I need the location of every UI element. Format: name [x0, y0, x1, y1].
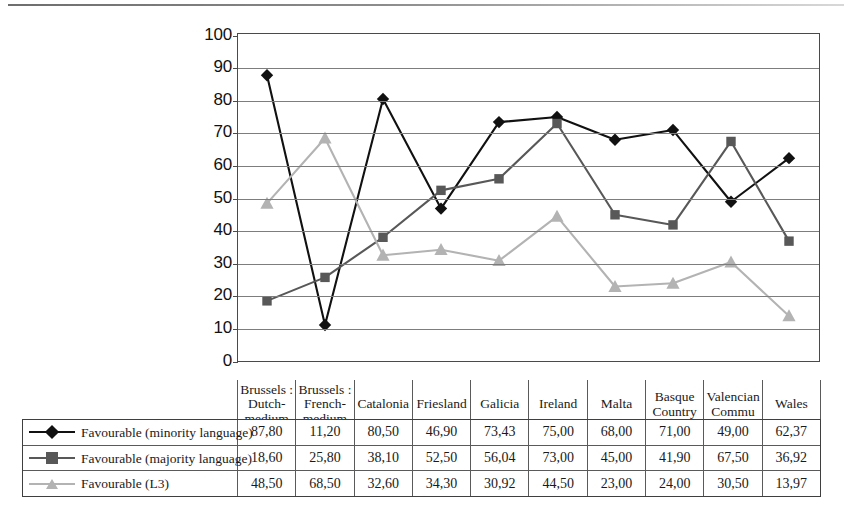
data-value-cell: 25,80: [296, 446, 354, 471]
data-point-marker-square: [262, 296, 271, 305]
table-row: Favourable (minority language)87,8011,20…: [23, 420, 820, 446]
y-tick-mark: [233, 101, 238, 102]
data-value-cell: 34,30: [413, 471, 471, 496]
data-value-cell: 44,50: [529, 471, 587, 496]
y-tick-mark: [233, 296, 238, 297]
data-value-cell: 73,43: [471, 420, 529, 445]
data-value-cell: 68,50: [296, 471, 354, 496]
plot-area: [237, 33, 820, 362]
legend-swatch-diamond-icon: [29, 423, 75, 441]
legend-label: Favourable (majority language): [75, 451, 252, 466]
data-value-cell: 36,92: [763, 446, 820, 471]
legend-cell[interactable]: Favourable (majority language): [23, 446, 238, 471]
table-row: Favourable (majority language)18,6025,80…: [23, 446, 820, 472]
data-value-cell: 18,60: [238, 446, 296, 471]
y-axis-tick-labels: 0102030405060708090100: [196, 18, 232, 362]
data-value-cell: 80,50: [355, 420, 413, 445]
data-value-cell: 56,04: [471, 446, 529, 471]
y-tick-label: 80: [196, 91, 232, 108]
y-tick-label: 30: [196, 254, 232, 271]
data-legend-table: Favourable (minority language)87,8011,20…: [22, 419, 821, 497]
data-point-marker-square: [726, 137, 735, 146]
y-tick-mark: [233, 199, 238, 200]
data-value-cell: 30,50: [704, 471, 762, 496]
gridline: [238, 166, 819, 167]
data-point-marker-square: [552, 119, 561, 128]
series-group: [262, 119, 793, 306]
data-value-cell: 62,37: [763, 420, 820, 445]
gridline: [238, 133, 819, 134]
data-value-cell: 23,00: [588, 471, 646, 496]
y-tick-label: 100: [196, 26, 232, 43]
data-point-marker-square: [668, 220, 677, 229]
data-value-cell: 41,90: [646, 446, 704, 471]
y-tick-label: 60: [196, 156, 232, 173]
y-tick-label: 10: [196, 319, 232, 336]
data-point-marker-square: [436, 186, 445, 195]
data-value-cell: 68,00: [588, 420, 646, 445]
legend-swatch-triangle-icon: [29, 475, 75, 493]
data-point-marker-square: [610, 210, 619, 219]
data-value-cell: 48,50: [238, 471, 296, 496]
y-tick-label: 0: [196, 352, 232, 369]
data-value-cell: 73,00: [529, 446, 587, 471]
series-group: [261, 69, 795, 331]
data-point-marker-square: [784, 236, 793, 245]
y-tick-label: 20: [196, 286, 232, 303]
figure-root: 0102030405060708090100 Brussels : Dutch-…: [0, 0, 855, 523]
data-point-marker-square: [378, 233, 387, 242]
series-line: [267, 124, 789, 301]
data-value-cell: 45,00: [588, 446, 646, 471]
data-point-marker-triangle: [724, 255, 737, 267]
gridline: [238, 296, 819, 297]
y-tick-mark: [233, 231, 238, 232]
data-value-cell: 46,90: [413, 420, 471, 445]
data-value-cell: 87,80: [238, 420, 296, 445]
series-group: [260, 132, 795, 322]
gridline: [238, 329, 819, 330]
y-tick-label: 50: [196, 189, 232, 206]
data-value-cell: 49,00: [704, 420, 762, 445]
legend-label: Favourable (L3): [75, 476, 169, 491]
legend-marker-square-icon: [46, 452, 58, 464]
gridline: [238, 231, 819, 232]
legend-cell[interactable]: Favourable (minority language): [23, 420, 238, 445]
legend-label: Favourable (minority language): [75, 425, 253, 440]
data-point-marker-diamond: [261, 69, 273, 81]
y-tick-mark: [233, 264, 238, 265]
data-point-marker-square: [320, 273, 329, 282]
data-value-cell: 52,50: [413, 446, 471, 471]
data-value-cell: 38,10: [355, 446, 413, 471]
legend-marker-triangle-icon: [46, 479, 58, 489]
data-point-marker-diamond: [493, 116, 505, 128]
gridline: [238, 199, 819, 200]
data-point-marker-triangle: [550, 210, 563, 222]
table-row: Favourable (L3)48,5068,5032,6034,3030,92…: [23, 471, 820, 496]
data-point-marker-diamond: [377, 93, 389, 105]
gridline: [238, 68, 819, 69]
series-line: [267, 75, 789, 325]
y-tick-label: 70: [196, 123, 232, 140]
y-tick-label: 90: [196, 58, 232, 75]
gridline: [238, 101, 819, 102]
data-value-cell: 13,97: [763, 471, 820, 496]
y-tick-mark: [233, 166, 238, 167]
series-line: [267, 138, 789, 316]
data-value-cell: 11,20: [296, 420, 354, 445]
data-value-cell: 24,00: [646, 471, 704, 496]
legend-cell[interactable]: Favourable (L3): [23, 471, 238, 496]
figure-top-rule: [8, 4, 844, 6]
data-value-cell: 67,50: [704, 446, 762, 471]
y-tick-mark: [233, 362, 238, 363]
legend-marker-diamond-icon: [45, 425, 59, 439]
y-tick-mark: [233, 68, 238, 69]
data-value-cell: 30,92: [471, 471, 529, 496]
data-value-cell: 71,00: [646, 420, 704, 445]
y-tick-label: 40: [196, 221, 232, 238]
data-point-marker-diamond: [609, 134, 621, 146]
legend-swatch-square-icon: [29, 449, 75, 467]
chart-area: 0102030405060708090100 Brussels : Dutch-…: [0, 18, 855, 398]
data-value-cell: 32,60: [355, 471, 413, 496]
data-value-cell: 75,00: [529, 420, 587, 445]
y-tick-mark: [233, 133, 238, 134]
